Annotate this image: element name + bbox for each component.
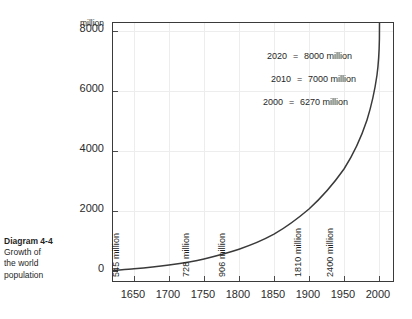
x-tick-label-1850: 1850 <box>253 288 293 300</box>
point-label-906: 906 million <box>217 233 227 277</box>
plot-area: 545 million 728 million 906 million 1810… <box>112 22 394 282</box>
annotation-2000: 2000 = 6270 million <box>257 97 348 107</box>
annotation-value: 7000 million <box>308 74 356 84</box>
y-tick-label-0: 0 <box>42 262 104 274</box>
x-tick-label-2000: 2000 <box>358 288 398 300</box>
annotation-2010: 2010 = 7000 million <box>265 74 356 84</box>
point-label-545: 545 million <box>111 233 121 277</box>
population-curve <box>113 23 395 283</box>
x-tick-label-1750: 1750 <box>183 288 223 300</box>
x-tick-label-1700: 1700 <box>148 288 188 300</box>
annotation-equals: = <box>290 51 302 61</box>
annotation-2020: 2020 = 8000 million <box>261 51 352 61</box>
annotation-equals: = <box>286 97 298 107</box>
point-label-1810: 1810 million <box>293 228 303 277</box>
annotation-equals: = <box>294 74 306 84</box>
x-tick-label-1900: 1900 <box>288 288 328 300</box>
figure-caption: Diagram 4-4 Growth of the world populati… <box>4 236 74 281</box>
y-tick-label-4000: 4000 <box>42 142 104 154</box>
x-tick-label-1650: 1650 <box>113 288 153 300</box>
figure-caption-line-1: Growth of <box>4 247 74 258</box>
annotation-year: 2000 <box>257 97 283 107</box>
annotation-value: 8000 million <box>304 51 352 61</box>
annotation-value: 6270 million <box>300 97 348 107</box>
point-label-2400: 2400 million <box>325 228 335 277</box>
figure-caption-title: Diagram 4-4 <box>4 236 74 247</box>
x-tick-label-1800: 1800 <box>218 288 258 300</box>
y-tick-label-6000: 6000 <box>42 82 104 94</box>
annotation-year: 2020 <box>261 51 287 61</box>
annotation-year: 2010 <box>265 74 291 84</box>
x-tick-label-1950: 1950 <box>323 288 363 300</box>
y-tick-label-2000: 2000 <box>42 202 104 214</box>
point-label-728: 728 million <box>181 233 191 277</box>
y-tick-label-8000: 8000 <box>42 22 104 34</box>
diagram-page: Diagram 4-4 Growth of the world populati… <box>0 0 412 319</box>
